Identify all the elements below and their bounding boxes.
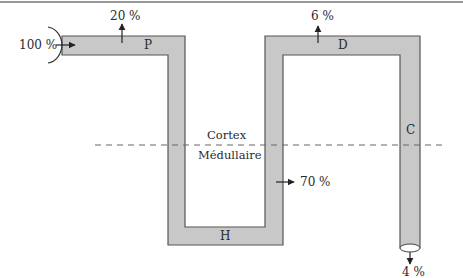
input-flow-label: 100 %	[19, 38, 57, 52]
nephron-diagram: 100 % 20 % P 6 % D C Cortex Médullaire 7…	[0, 0, 463, 278]
segment-d-label: D	[338, 38, 348, 52]
nephron-tube	[62, 36, 420, 248]
segment-c-label: C	[406, 123, 415, 137]
medulla-label: Médullaire	[198, 148, 262, 162]
segment-p-label: P	[144, 38, 152, 52]
duct-outlet	[400, 244, 420, 252]
segment-h-label: H	[220, 229, 230, 243]
cortex-label: Cortex	[207, 128, 247, 142]
diagram-canvas: 100 % 20 % P 6 % D C Cortex Médullaire 7…	[0, 0, 463, 278]
henle-out-label: 70 %	[300, 175, 331, 189]
distal-out-label: 6 %	[311, 9, 334, 23]
proximal-out-label: 20 %	[110, 9, 141, 23]
final-out-label: 4 %	[402, 265, 425, 278]
